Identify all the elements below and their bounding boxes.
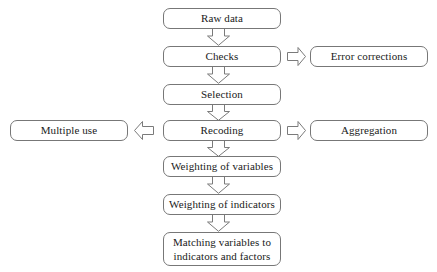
node-error-corrections: Error corrections xyxy=(310,46,428,67)
node-weighting-of-variables: Weighting of variables xyxy=(163,156,281,177)
node-recoding: Recoding xyxy=(163,120,281,141)
node-recoding-label: Recoding xyxy=(201,124,244,137)
arrow-selection-to-recoding xyxy=(207,105,230,121)
node-weighting-of-variables-label: Weighting of variables xyxy=(171,160,273,173)
arrow-recoding-to-aggregation xyxy=(287,121,306,140)
arrow-weighting-indicators-to-matching xyxy=(207,215,230,232)
arrow-checks-to-error-corrections xyxy=(287,47,306,66)
node-error-corrections-label: Error corrections xyxy=(331,50,408,63)
arrow-recoding-to-weighting-variables xyxy=(207,141,230,157)
flowchart-canvas: Raw data Checks Selection Recoding Weigh… xyxy=(0,0,437,272)
node-raw-data: Raw data xyxy=(163,8,281,29)
node-checks: Checks xyxy=(163,46,281,67)
node-aggregation-label: Aggregation xyxy=(341,124,397,137)
node-checks-label: Checks xyxy=(206,50,239,63)
node-aggregation: Aggregation xyxy=(310,120,428,141)
node-matching-variables-label-line1: Matching variables to xyxy=(173,235,271,249)
arrow-recoding-to-multiple-use xyxy=(134,121,154,140)
node-multiple-use: Multiple use xyxy=(10,120,128,141)
node-weighting-of-indicators-label: Weighting of indicators xyxy=(169,198,275,211)
node-weighting-of-indicators: Weighting of indicators xyxy=(163,194,281,215)
node-matching-variables: Matching variables to indicators and fac… xyxy=(163,232,281,266)
arrow-raw-data-to-checks xyxy=(207,29,230,46)
node-raw-data-label: Raw data xyxy=(201,12,243,25)
node-selection: Selection xyxy=(163,84,281,105)
node-matching-variables-label-line2: indicators and factors xyxy=(174,249,271,263)
arrow-weighting-variables-to-weighting-indicators xyxy=(207,177,230,194)
arrow-checks-to-selection xyxy=(207,67,230,84)
node-selection-label: Selection xyxy=(201,88,243,101)
node-multiple-use-label: Multiple use xyxy=(41,124,98,137)
